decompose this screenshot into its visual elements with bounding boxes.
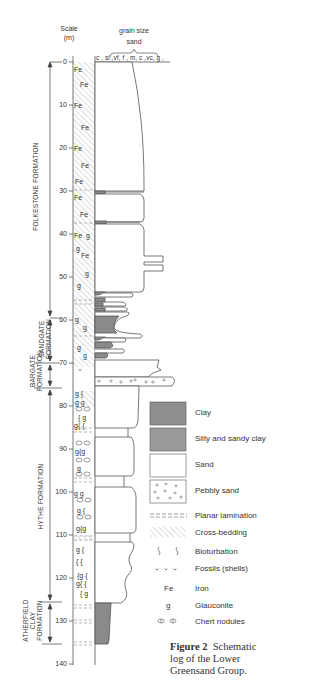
iron-symbol: Fe — [74, 66, 82, 74]
legend-iron-symbol: Fe — [164, 584, 173, 594]
glauconite-symbol: g — [86, 232, 90, 240]
legend-label-planar-lamination: Planar lamination — [195, 511, 257, 521]
glauconite-symbol: g — [83, 352, 87, 360]
glauconite-bioturbation: g{g — [76, 525, 86, 533]
iron-symbol: Fe — [74, 145, 82, 153]
depth-label: 20 — [45, 144, 67, 152]
iron-symbol: Fe — [74, 102, 82, 110]
glauconite-bioturbation: g { — [75, 390, 83, 398]
depth-label: 40 — [45, 230, 67, 238]
glauconite-symbol: g — [77, 344, 81, 352]
legend-swatch-chert — [158, 619, 176, 623]
glauconite-symbol: g — [77, 465, 81, 473]
legend-label-clay: Clay — [195, 408, 211, 418]
legend-swatch-bioturbation — [158, 547, 178, 555]
glauconite-symbol: g — [75, 316, 79, 324]
legend-label-fossils: Fossils (shells) — [195, 564, 248, 574]
depth-label: 80 — [45, 402, 67, 410]
legend-swatch-pebbly-sand — [150, 480, 186, 503]
glauconite-bioturbation: g{g — [75, 448, 85, 456]
depth-label: 120 — [45, 574, 67, 582]
glauconite-bioturbation: g{ { — [76, 580, 87, 588]
glauconite-symbol: g — [77, 282, 81, 290]
iron-symbol: Fe — [74, 232, 82, 240]
formation-label-line: FORMATION — [36, 596, 43, 646]
iron-symbol: Fe — [74, 194, 82, 202]
formation-label-hythe: HYTHE FORMATION — [37, 447, 44, 547]
grain-size-sand-label: sand — [100, 37, 168, 46]
fossil-marks — [78, 369, 82, 371]
glauconite-bioturbation: g { — [77, 507, 85, 515]
iron-symbol: Fe — [80, 211, 88, 219]
glauconite-pair: g g — [75, 399, 85, 407]
grain-size-title: grain size — [100, 26, 168, 35]
glauconite-bioturbation: { g — [80, 590, 88, 598]
glauconite-symbol: g — [85, 270, 89, 278]
legend-swatch-fossils — [155, 568, 177, 571]
iron-symbol: Fe — [75, 178, 83, 186]
glauconite-bioturbation: g{ { — [74, 422, 85, 430]
depth-label: 50 — [45, 273, 67, 281]
iron-symbol: Fe — [81, 124, 89, 132]
depth-label: 140 — [45, 660, 67, 668]
depth-label: 100 — [45, 488, 67, 496]
depth-ticks — [69, 62, 73, 664]
scale-title-line2: (m) — [54, 33, 84, 42]
legend-swatch-planar-lamination — [150, 514, 187, 517]
depth-label: 90 — [45, 445, 67, 453]
legend-swatch-cross-bedding — [150, 527, 186, 537]
legend-label-glauconite: Glauconite — [195, 601, 233, 611]
legend-swatch-sand — [150, 454, 186, 477]
glauconite-pair: g g — [74, 490, 84, 498]
legend-label-cross-bedding: Cross-bedding — [195, 528, 247, 538]
caption-line: log of the Lower — [170, 653, 295, 665]
legend-swatch-silty-clay — [150, 428, 186, 451]
glauconite-symbol: g — [83, 324, 87, 332]
iron-symbol: Fe — [81, 162, 89, 170]
legend-label-chert-nodules: Chert nodules — [195, 617, 245, 627]
formation-label-line: BARGATE — [29, 346, 36, 396]
formation-label-line: ATHERFIELD — [22, 596, 29, 646]
formation-label-bargate: BARGATE FORMATION — [29, 346, 43, 396]
formation-label-line: FORMATION — [36, 346, 43, 396]
legend-label-bioturbation: Bioturbation — [195, 547, 238, 557]
legend-label-sand: Sand — [195, 460, 214, 470]
depth-label: 30 — [45, 187, 67, 195]
lithology-column — [95, 62, 175, 644]
legend-label-pebbly-sand: Pebbly sand — [195, 486, 239, 496]
iron-symbol: Fe — [80, 81, 88, 89]
grain-size-columns: c , si ,vf, f , m, c ,vc, g , — [96, 54, 164, 61]
iron-symbol: Fe — [81, 252, 89, 260]
bioturbation-symbol: { { — [76, 558, 83, 566]
depth-label: 110 — [45, 531, 67, 539]
glauconite-bioturbation: {g { — [77, 572, 88, 580]
formation-label-atherfield: ATHERFIELD CLAY FORMATION — [22, 596, 43, 646]
figure-caption: Figure 2 Schematic log of the Lower Gree… — [170, 641, 295, 677]
depth-label: 10 — [45, 101, 67, 109]
legend-glauconite-symbol: g — [166, 601, 170, 611]
formation-label-line: FORMATION — [45, 314, 52, 364]
scale-title: Scale (m) — [54, 24, 84, 42]
caption-line: Greensand Group. — [170, 665, 295, 677]
glauconite-bioturbation: g { — [76, 546, 84, 554]
legend-label-silty-clay: Silty and sandy clay — [195, 434, 266, 444]
figure-label: Figure 2 — [170, 641, 207, 652]
legend-label-iron: Iron — [195, 584, 209, 594]
glauconite-symbol: g — [76, 245, 80, 253]
formation-label-folkestone: FOLKESTONE FORMATION — [32, 112, 39, 262]
depth-label: 130 — [45, 617, 67, 625]
caption-line: Schematic — [213, 641, 257, 652]
scale-title-line1: Scale — [54, 24, 84, 33]
formation-label-line: CLAY — [29, 596, 36, 646]
legend-swatch-clay — [150, 402, 186, 425]
glauconite-bioturbation: { g — [78, 414, 86, 422]
depth-label: 0 — [45, 58, 67, 66]
